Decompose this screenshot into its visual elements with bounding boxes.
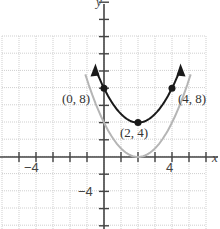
x-tick-label-neg4: −4: [24, 160, 39, 175]
point-label-2-4: (2, 4): [120, 125, 148, 141]
y-tick-label-neg4: −4: [78, 184, 93, 199]
x-tick-label-4: 4: [166, 160, 173, 175]
point-label-0-8: (0, 8): [62, 91, 90, 107]
graph: y x −4 4 −4 (0, 8) (2, 4) (4, 8): [0, 0, 220, 229]
point-label-4-8: (4, 8): [178, 91, 206, 107]
y-axis-label: y: [96, 0, 102, 10]
x-axis-label: x: [212, 150, 218, 166]
plot-area: [0, 0, 220, 229]
